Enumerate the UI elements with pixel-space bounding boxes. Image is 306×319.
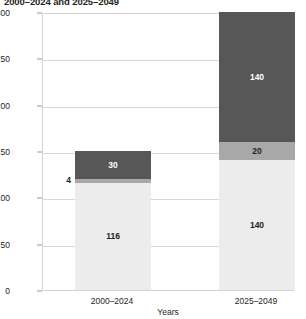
y-tick-label-250: 250 [0,54,10,64]
y-tick-label-50: 50 [0,240,10,250]
y-tick-label-100: 100 [0,193,10,203]
y-tick-label-200: 200 [0,101,10,111]
bar-segment-label: 30 [108,161,117,170]
y-tick-label-0: 0 [0,286,10,296]
bar-segment-label: 140 [250,73,264,82]
bar-2025-2049[interactable]: 140 20 140 [219,12,295,290]
bar-2000-2024[interactable]: 30 4 116 [75,151,151,290]
chart-title: 2000–2024 and 2025–2049 [4,0,119,7]
bar-segment-light[interactable]: 140 [219,160,295,290]
x-tick-label-2000-2024: 2000–2024 [91,296,134,306]
x-tick-label-2025-2049: 2025–2049 [235,296,278,306]
bar-segment-mid[interactable]: 20 [219,142,295,161]
plot-area: 30 4 116 140 20 140 [42,13,294,291]
bar-segment-light[interactable]: 116 [75,183,151,291]
bar-segment-label: 20 [252,147,261,156]
bar-segment-label: 4 [66,176,71,185]
x-axis-title: Years [42,307,294,317]
y-tick-label-300: 300 [0,8,10,18]
bar-segment-dark[interactable]: 30 [75,151,151,179]
chart-container: 2000–2024 and 2025–2049 Cumulative death… [0,0,306,319]
y-tick-label-150: 150 [0,147,10,157]
bar-segment-label: 140 [250,221,264,230]
bar-segment-label: 116 [106,232,120,241]
bar-segment-dark[interactable]: 140 [219,12,295,142]
